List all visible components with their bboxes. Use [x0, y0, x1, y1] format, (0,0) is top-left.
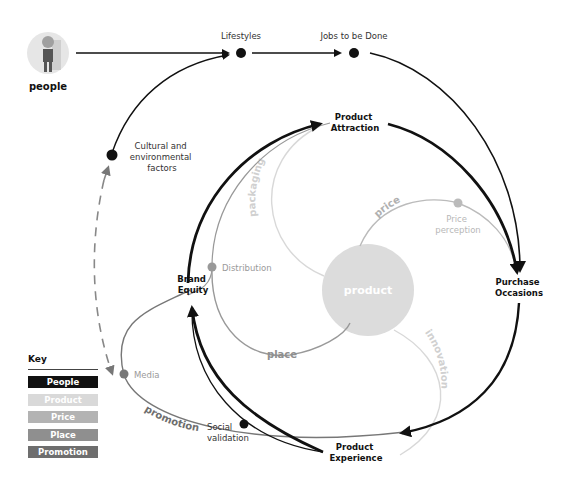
social-validation-node[interactable] [240, 420, 249, 429]
purchase-label: Purchase Occasions [495, 277, 543, 298]
cultural-node[interactable] [107, 150, 118, 161]
distribution-label: Distribution [222, 263, 272, 273]
dashed-arrow-head-up [104, 168, 108, 180]
product-label: product [344, 284, 392, 297]
attraction-label: Product Attraction [331, 112, 380, 133]
legend-item-people: People [28, 376, 98, 388]
legend: Key People Product Price Place Promotion [28, 354, 98, 464]
experience-label: Product Experience [330, 442, 383, 463]
people-avatar [27, 32, 69, 74]
price-perception-label: Price perception [435, 214, 481, 235]
media-node[interactable] [120, 370, 129, 379]
packaging-arc [272, 126, 324, 276]
lifestyles-node[interactable] [236, 48, 246, 58]
legend-item-promotion: Promotion [28, 446, 98, 458]
place-label: place [267, 349, 297, 360]
promotion-label: promotion [143, 403, 200, 433]
cultural-media-dashed-arrow [94, 180, 112, 373]
legend-title: Key [28, 354, 98, 370]
price-label: price [372, 194, 402, 220]
jobs-node[interactable] [349, 48, 359, 58]
lifestyles-label: Lifestyles [221, 31, 262, 41]
legend-item-place: Place [28, 429, 98, 441]
cultural-label: Cultural and environmental factors [130, 141, 194, 173]
media-label: Media [134, 370, 160, 380]
jobs-label: Jobs to be Done [319, 31, 387, 41]
people-label: people [29, 81, 67, 92]
attraction-to-purchase-arrow [388, 124, 517, 272]
legend-item-product: Product [28, 394, 98, 406]
cultural-to-lifestyles-arrow [112, 55, 228, 153]
packaging-label: packaging [246, 156, 266, 218]
purchase-to-experience-arrow [402, 303, 519, 433]
legend-item-price: Price [28, 411, 98, 423]
brand-label: Brand Equity [177, 274, 209, 295]
price-perception-node[interactable] [454, 199, 463, 208]
distribution-node[interactable] [208, 263, 217, 272]
jobs-to-purchase-arrow [370, 53, 520, 270]
